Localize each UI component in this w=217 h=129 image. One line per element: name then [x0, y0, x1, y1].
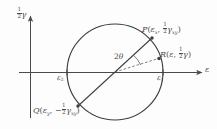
- epsilon-subscript: 1: [161, 77, 164, 82]
- horizontal-axis-label: ε: [205, 66, 209, 74]
- point-q-label: Q(εy, −12γxy): [33, 103, 80, 115]
- theta-symbol: θ: [119, 52, 124, 61]
- principal-strain-1-label: ε1: [157, 75, 164, 82]
- point-p-marker: [150, 36, 153, 39]
- angle-2theta-label: 2θ: [114, 53, 123, 62]
- point-q-y-sign: −: [55, 106, 62, 115]
- epsilon-subscript: 2: [61, 77, 64, 82]
- paren-close: ): [178, 25, 181, 34]
- gamma-symbol: γ: [22, 10, 27, 19]
- principal-strain-2-label: ε2: [57, 75, 64, 82]
- point-r-label: R(ε, 12γ): [160, 47, 191, 59]
- paren-close: ): [77, 106, 80, 115]
- paren-close: ): [188, 50, 191, 59]
- point-p-label: P(εx, 12γxy): [142, 22, 181, 34]
- angle-arc: [134, 55, 141, 65]
- mohrs-circle-figure: 1 2 γ ε P(εx, 12γxy) R(ε, 12γ) Q(εy, −12…: [0, 0, 217, 129]
- vertical-axis-label: 1 2 γ: [17, 7, 26, 19]
